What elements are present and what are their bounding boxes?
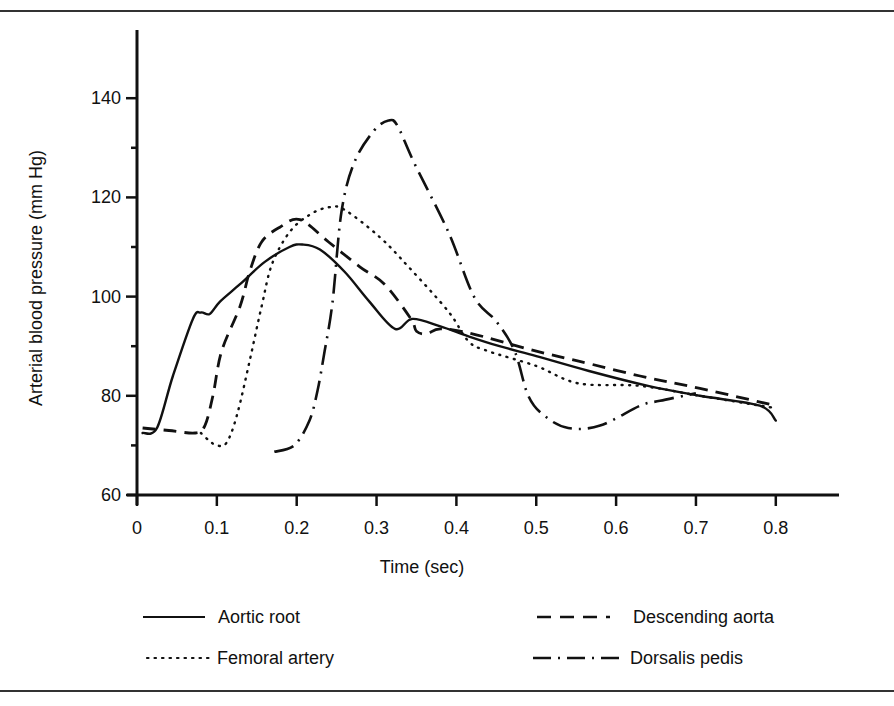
x-tick-label: 0.2: [284, 518, 309, 538]
x-tick-label: 0.8: [763, 518, 788, 538]
legend-label-femoral-artery: Femoral artery: [217, 648, 334, 668]
bottom-border-rule: [0, 690, 894, 692]
x-tick-label: 0.5: [524, 518, 549, 538]
y-axis-title: Arterial blood pressure (mm Hg): [26, 150, 46, 406]
line-chart: 6080100120140 00.10.20.30.40.50.60.70.8 …: [0, 0, 894, 706]
legend-swatches: [143, 617, 622, 658]
x-tick-label: 0.4: [444, 518, 469, 538]
legend-label-aortic-root: Aortic root: [218, 607, 300, 627]
x-ticks: 00.10.20.30.40.50.60.70.8: [132, 495, 788, 538]
legend-label-dorsalis-pedis: Dorsalis pedis: [630, 648, 743, 668]
y-tick-label: 100: [91, 287, 121, 307]
x-tick-label: 0.7: [683, 518, 708, 538]
y-tick-label: 60: [101, 485, 121, 505]
x-tick-label: 0.3: [364, 518, 389, 538]
x-tick-label: 0: [132, 518, 142, 538]
series-line-aortic-root: [143, 244, 776, 433]
y-tick-label: 120: [91, 187, 121, 207]
x-axis-title: Time (sec): [380, 557, 464, 577]
series-lines: [143, 120, 776, 452]
y-tick-label: 140: [91, 88, 121, 108]
x-tick-label: 0.6: [604, 518, 629, 538]
legend-label-descending-aorta: Descending aorta: [633, 607, 774, 627]
x-tick-label: 0.1: [204, 518, 229, 538]
y-ticks: 6080100120140: [91, 88, 137, 505]
series-line-dorsalis-pedis: [274, 120, 696, 452]
axes: [127, 30, 839, 505]
series-line-femoral-artery: [201, 206, 776, 446]
y-tick-label: 80: [101, 386, 121, 406]
